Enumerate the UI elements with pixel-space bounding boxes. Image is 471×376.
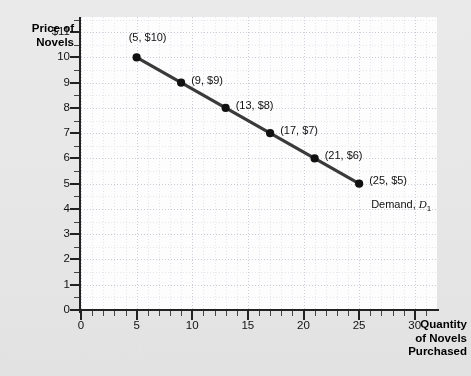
y-tick-minor [74,70,79,71]
data-point-label: (9, $9) [191,74,223,86]
demand-curve-label: Demand, D1 [371,198,431,213]
x-tick-minor [337,311,338,316]
x-tick-minor [426,311,427,316]
x-tick-minor [203,311,204,316]
x-tick-minor [181,311,182,316]
y-tick-label: 10 [32,50,70,62]
demand-curve-subscript: 1 [427,204,431,213]
y-tick-minor [74,171,79,172]
y-tick-label: 5 [32,177,70,189]
data-point-label: (17, $7) [280,124,318,136]
x-tick-minor [348,311,349,316]
data-point-label: (5, $10) [129,31,167,43]
x-tick-label: 10 [172,319,212,331]
y-tick-major [70,208,79,210]
x-axis-title-line: of Novels [383,332,467,346]
y-tick-minor [74,196,79,197]
watermark-text: Illustrated [8,339,143,370]
x-axis-title-line: Purchased [383,345,467,359]
x-tick-minor [237,311,238,316]
y-tick-label: 3 [32,227,70,239]
y-tick-label: 0 [32,303,70,315]
y-tick-label: 8 [32,101,70,113]
x-tick-label: 0 [61,319,101,331]
x-tick-minor [259,311,260,316]
x-tick-minor [159,311,160,316]
demand-label-text: Demand, [371,198,419,210]
x-tick-minor [292,311,293,316]
y-tick-label: 9 [32,76,70,88]
x-tick-minor [215,311,216,316]
y-tick-label: 4 [32,202,70,214]
x-tick-minor [114,311,115,316]
x-tick-minor [92,311,93,316]
y-tick-minor [74,297,79,298]
x-tick-minor [281,311,282,316]
x-axis-title: Quantityof NovelsPurchased [383,318,467,359]
x-tick-minor [381,311,382,316]
data-point-label: (25, $5) [369,174,407,186]
x-axis-title-line: Quantity [383,318,467,332]
x-tick-minor [226,311,227,316]
x-tick-minor [393,311,394,316]
y-tick-major [70,183,79,185]
x-tick-label: 20 [284,319,324,331]
y-tick-minor [74,222,79,223]
y-tick-minor [74,95,79,96]
y-tick-label: 6 [32,151,70,163]
demand-curve-symbol: D [419,198,427,210]
data-point-label: (21, $6) [325,149,363,161]
y-tick-major [70,56,79,58]
y-tick-major [70,82,79,84]
figure-canvas: 012345678910$11 051015202530 Price ofNov… [0,0,471,376]
y-tick-major [70,157,79,159]
y-tick-major [70,107,79,109]
x-tick-minor [370,311,371,316]
y-tick-minor [74,272,79,273]
x-tick-label: 5 [117,319,157,331]
x-tick-minor [404,311,405,316]
y-axis-title-line: Novels [6,36,74,50]
x-tick-minor [315,311,316,316]
y-tick-minor [74,146,79,147]
plot-area [81,17,437,310]
y-tick-label: 2 [32,252,70,264]
x-tick-label: 15 [228,319,268,331]
x-tick-minor [270,311,271,316]
y-tick-major [70,233,79,235]
x-tick-minor [103,311,104,316]
x-tick-minor [126,311,127,316]
y-tick-minor [74,45,79,46]
grid-layer [81,17,437,310]
y-tick-major [70,258,79,260]
y-axis-title-line: Price of [6,22,74,36]
y-tick-minor [74,247,79,248]
x-tick-minor [326,311,327,316]
x-tick-label: 25 [339,319,379,331]
y-tick-major [70,284,79,286]
data-point-label: (13, $8) [236,99,274,111]
x-tick-minor [170,311,171,316]
y-tick-label: 7 [32,126,70,138]
y-tick-major [70,132,79,134]
y-tick-minor [74,121,79,122]
y-axis-title: Price ofNovels [6,22,74,49]
x-tick-minor [148,311,149,316]
y-axis-line [79,17,81,313]
y-tick-minor [74,20,79,21]
y-tick-major [70,309,79,311]
y-tick-label: 1 [32,278,70,290]
